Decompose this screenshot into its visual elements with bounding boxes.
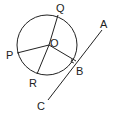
label-A: A xyxy=(100,18,108,30)
label-Q: Q xyxy=(56,2,65,14)
segment-OR xyxy=(37,45,49,74)
label-C: C xyxy=(37,100,45,112)
geometry-diagram: Q O P R B A C xyxy=(0,0,113,113)
label-R: R xyxy=(29,77,37,89)
label-O: O xyxy=(50,37,59,49)
label-P: P xyxy=(6,49,13,61)
segment-OP xyxy=(17,45,49,53)
label-B: B xyxy=(76,65,83,77)
